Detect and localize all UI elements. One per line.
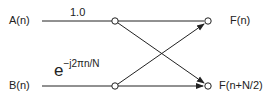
weight-bottom-exponent: −j2πn/N	[63, 58, 99, 69]
node-f-bottom	[205, 83, 211, 89]
input-label-a: A(n)	[9, 15, 30, 26]
output-label-bottom: F(n+N/2)	[219, 80, 263, 91]
edge-cross-up	[118, 24, 204, 84]
edge-cross-down	[118, 23, 204, 83]
input-label-b: B(n)	[9, 80, 30, 91]
output-label-top: F(n)	[230, 15, 250, 26]
node-a	[112, 18, 118, 24]
node-f-top	[205, 18, 211, 24]
weight-bottom: e−j2πn/N	[54, 62, 100, 79]
node-b	[112, 83, 118, 89]
weight-top: 1.0	[70, 7, 85, 18]
